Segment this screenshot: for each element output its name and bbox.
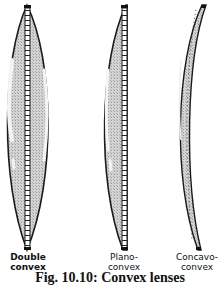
label-line: Double [0,252,56,262]
figure-caption: Fig. 10.10: Convex lenses [0,270,220,286]
label-line: Plano- [96,252,152,262]
concavo-convex-lens [180,5,207,250]
double-convex-label: Double convex [0,252,56,272]
plano-convex-label: Plano- convex [96,252,152,272]
double-convex-lens [7,5,48,250]
plano-convex-lens [105,5,128,250]
concavo-convex-label: Concavo- convex [172,252,222,272]
label-line: Concavo- [172,252,222,262]
